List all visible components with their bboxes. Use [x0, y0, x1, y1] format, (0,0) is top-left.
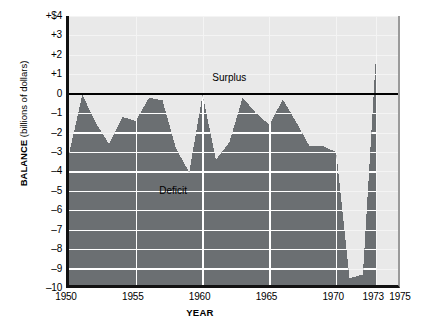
y-axis-tick-neg5: –5: [4, 186, 62, 196]
y-axis-tick-neg1: –1: [4, 108, 62, 118]
budget-balance-chart: +$4+3+2+10–1–2–3–4–5–6–7–8–9–10 BALANCE …: [0, 0, 436, 326]
y-axis-title-main: BALANCE: [18, 140, 29, 186]
x-axis-tick-1955: 1955: [122, 291, 143, 302]
x-axis-tick-1960: 1960: [189, 291, 210, 302]
area-fill: [69, 51, 376, 288]
y-axis-tick-neg3: –3: [4, 147, 62, 157]
x-axis-tick-labels: 1950195519601965197019731975: [0, 291, 436, 307]
x-axis-tick-1970: 1970: [322, 291, 343, 302]
x-axis-tick-1975: 1975: [389, 291, 410, 302]
y-axis-tick-neg2: –2: [4, 128, 62, 138]
y-axis-tick-neg7: –7: [4, 225, 62, 235]
plot-inner: SurplusDeficit: [69, 16, 398, 285]
x-axis-title: YEAR: [0, 307, 436, 318]
y-axis-tick-neg8: –8: [4, 244, 62, 254]
y-axis-tick-3: +3: [4, 30, 62, 40]
y-axis-tick-1: +1: [4, 69, 62, 79]
x-axis-tick-1950: 1950: [55, 291, 76, 302]
plot-area: SurplusDeficit: [66, 16, 400, 288]
chart-svg: [69, 16, 400, 288]
y-axis-tick-2: +2: [4, 50, 62, 60]
x-axis-tick-1973: 1973: [363, 291, 384, 302]
y-axis-tick-0: 0: [4, 89, 62, 99]
y-axis-title-units: (billions of dollars): [18, 61, 29, 140]
annotation-deficit: Deficit: [159, 185, 187, 196]
annotation-surplus: Surplus: [212, 72, 246, 83]
y-axis-tick-neg4: –4: [4, 166, 62, 176]
y-axis-tick-neg6: –6: [4, 205, 62, 215]
y-axis-tick-neg9: –9: [4, 264, 62, 274]
x-axis-tick-1965: 1965: [256, 291, 277, 302]
y-axis-title: BALANCE (billions of dollars): [18, 29, 29, 219]
y-axis-tick-4: +$4: [4, 11, 62, 21]
x-axis-title-text: YEAR: [186, 307, 214, 318]
y-axis-tick-labels: +$4+3+2+10–1–2–3–4–5–6–7–8–9–10: [0, 0, 62, 326]
